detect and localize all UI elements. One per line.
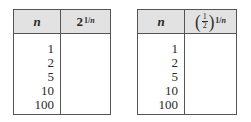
- n-value: 2: [138, 56, 178, 70]
- function-base-fraction: ( 1 2 ): [195, 13, 214, 30]
- fraction: 1 2: [201, 13, 209, 30]
- header-n-label: n: [33, 14, 40, 30]
- exponent-variable: n: [90, 16, 94, 25]
- table-half-to-one-over-n: n ( 1 2 ) 1/n 1 2 5 10 100: [137, 9, 237, 115]
- n-value: 5: [14, 70, 54, 84]
- exponent-variable: n: [222, 16, 226, 25]
- function-exponent: 1/n: [215, 16, 226, 25]
- n-values-column: 1 2 5 10 100: [138, 42, 178, 112]
- n-value: 100: [14, 98, 54, 112]
- header-function: 21/n: [61, 10, 110, 33]
- n-value: 2: [14, 56, 54, 70]
- fraction-denominator: 2: [203, 22, 207, 30]
- n-value: 1: [138, 42, 178, 56]
- header-function: ( 1 2 ) 1/n: [185, 10, 236, 33]
- n-value: 1: [14, 42, 54, 56]
- n-value: 100: [138, 98, 178, 112]
- n-value: 10: [138, 84, 178, 98]
- right-paren: ): [209, 12, 215, 31]
- function-exponent: 1/n: [84, 16, 95, 25]
- header-n: n: [14, 10, 60, 33]
- header-n-label: n: [157, 14, 164, 30]
- n-values-column: 1 2 5 10 100: [14, 42, 54, 112]
- n-value: 10: [14, 84, 54, 98]
- function-base: 2: [76, 14, 83, 30]
- table-two-to-one-over-n: n 21/n 1 2 5 10 100: [13, 9, 111, 115]
- n-value: 5: [138, 70, 178, 84]
- header-n: n: [138, 10, 184, 33]
- left-paren: (: [195, 12, 201, 31]
